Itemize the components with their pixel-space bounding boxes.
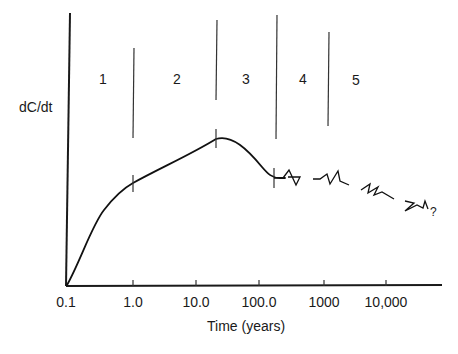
region-label-4: 4	[299, 71, 307, 87]
uncertainty-mark: ?	[430, 205, 437, 219]
region-label-2: 2	[173, 71, 181, 87]
diagram-canvas: 0.1 1.0 10.0 100.0 1000 10,000 dC/dt Tim…	[0, 0, 458, 354]
x-tick-label-5: 10,000	[365, 294, 408, 310]
zigzag-4	[405, 201, 428, 211]
zigzag-3	[361, 184, 394, 199]
region-label-1: 1	[99, 71, 107, 87]
x-tick-label-3: 100.0	[241, 294, 276, 310]
x-tick-label-2: 10.0	[182, 294, 209, 310]
y-axis	[66, 13, 70, 286]
zigzag-trend	[274, 170, 428, 211]
x-tick-label-0: 0.1	[56, 294, 76, 310]
region-label-5: 5	[352, 72, 360, 88]
region-label-3: 3	[242, 71, 250, 87]
y-axis-label: dC/dt	[19, 99, 53, 115]
zigzag-2	[313, 171, 349, 185]
zigzag-1	[274, 170, 300, 185]
curve-boundary-ticks	[133, 129, 274, 192]
x-tick-label-4: 1000	[308, 294, 339, 310]
x-axis-label: Time (years)	[207, 318, 285, 334]
rate-curve	[67, 138, 285, 285]
x-tick-label-1: 1.0	[123, 294, 143, 310]
